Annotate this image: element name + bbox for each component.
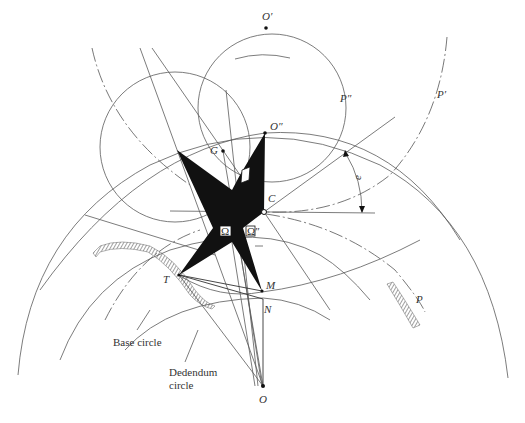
line-b bbox=[152, 48, 240, 175]
omega-right-label: Ω″ bbox=[247, 225, 260, 237]
label-angle-e: e bbox=[351, 175, 363, 180]
hatched-profile-p bbox=[387, 282, 420, 328]
curve-p-prime bbox=[266, 37, 447, 212]
label-g: G bbox=[210, 144, 218, 156]
point-t bbox=[177, 273, 180, 276]
point-o-prime bbox=[264, 26, 268, 30]
star-shape bbox=[177, 133, 265, 291]
label-o-prime: O′ bbox=[262, 10, 273, 22]
line-horizontal-c bbox=[170, 211, 375, 213]
point-m bbox=[260, 289, 263, 292]
gear-geometry-diagram: Ω Ω″ O′ O″ G C T M N O P″ P′ P e Base ci… bbox=[0, 0, 525, 423]
angle-arc-e bbox=[346, 154, 362, 212]
leader-base-circle bbox=[137, 310, 150, 330]
point-o-double-prime bbox=[263, 131, 267, 135]
label-t: T bbox=[163, 273, 170, 285]
point-o bbox=[261, 384, 265, 388]
label-p: P bbox=[415, 293, 423, 305]
angle-arrow-bottom bbox=[359, 206, 365, 213]
top-arc bbox=[235, 55, 290, 59]
label-m: M bbox=[265, 279, 276, 291]
label-c: C bbox=[268, 192, 276, 204]
right-circle bbox=[198, 34, 346, 182]
leader-dedendum bbox=[185, 330, 198, 362]
label-o: O bbox=[259, 393, 267, 405]
label-o-double-prime: O″ bbox=[270, 120, 283, 132]
point-g bbox=[221, 149, 225, 153]
caption-dedendum-line2: circle bbox=[169, 379, 194, 391]
line-c-tangent bbox=[264, 117, 395, 212]
caption-base-circle: Base circle bbox=[113, 336, 162, 348]
label-n: N bbox=[263, 303, 272, 315]
omega-left-label: Ω bbox=[221, 225, 229, 237]
line-c-to-o bbox=[264, 212, 330, 310]
caption-dedendum-line1: Dedendum bbox=[169, 366, 218, 378]
label-p-prime: P′ bbox=[436, 88, 447, 100]
base-circle-arc bbox=[60, 237, 370, 360]
label-p-double-prime: P″ bbox=[339, 92, 352, 104]
point-c bbox=[262, 210, 267, 215]
